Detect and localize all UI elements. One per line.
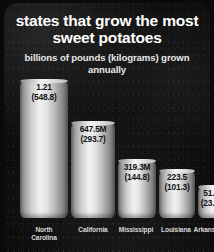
bar-cap xyxy=(198,185,214,189)
bar-arkansas xyxy=(198,186,214,218)
axis-label-line-1: Mississippi xyxy=(119,226,153,233)
infographic-chart: states that grow the most sweet potatoes… xyxy=(0,0,214,252)
bar-cap xyxy=(71,121,115,125)
axis-label-arkansas: Arkansas xyxy=(186,226,214,234)
axis-label-north-carolina: North Carolina xyxy=(20,226,68,242)
axis-label-line-2: Carolina xyxy=(31,234,57,241)
chart-subtitle: billions of pounds (kilograms) grown ann… xyxy=(10,52,204,75)
axis-label-line-1: Arkansas xyxy=(194,226,214,233)
bar-cap xyxy=(159,169,195,173)
bar-louisiana xyxy=(159,170,195,218)
bar-california xyxy=(71,122,115,218)
page-title: states that grow the most sweet potatoes xyxy=(10,12,204,46)
axis-label-line-1: North xyxy=(35,226,52,233)
bar-mississippi xyxy=(118,160,156,218)
bar-north-carolina xyxy=(20,80,68,218)
bar-cap xyxy=(118,159,156,163)
bar-cap xyxy=(20,79,68,83)
axis-label-line-1: California xyxy=(78,226,107,233)
bar-chart-plot-area: 1.21 (548.8) 647.5M (293.7) 319.3M (144.… xyxy=(0,80,214,220)
